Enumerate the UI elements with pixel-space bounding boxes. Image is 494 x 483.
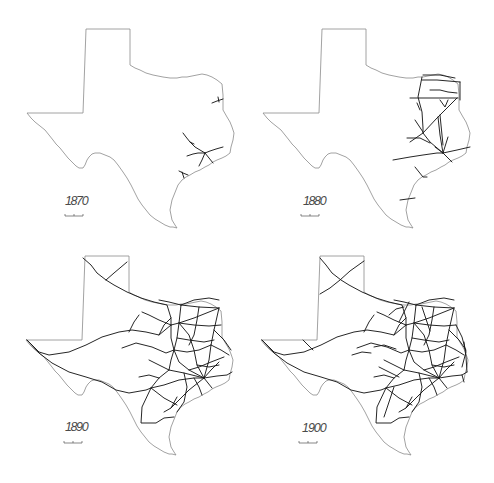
railroad-line <box>404 370 439 378</box>
railroad-network <box>393 75 470 200</box>
map-panel-1890: 1890 <box>26 256 233 455</box>
railroad-line <box>440 100 448 107</box>
railroad-line <box>179 171 188 175</box>
railroad-line <box>414 323 439 378</box>
scale-bar <box>65 214 83 216</box>
railroad-line <box>443 137 448 153</box>
railroad-line <box>151 325 174 388</box>
map-panel-1870: 1870 <box>27 29 234 228</box>
railroad-line <box>414 323 456 326</box>
scale-bar <box>64 441 82 443</box>
railroad-line <box>129 315 139 332</box>
railroad-line <box>446 345 464 355</box>
railroad-line <box>183 133 205 153</box>
railroad-network <box>179 97 223 178</box>
railroad-line <box>204 378 212 388</box>
railroad-line <box>205 147 223 153</box>
railroad-line <box>357 343 409 353</box>
railroad-line <box>418 77 423 133</box>
railroad-line <box>204 308 219 378</box>
map-panel-1900: 1900 <box>261 256 468 455</box>
scale-bar <box>301 214 319 216</box>
texas-outline <box>26 256 233 455</box>
railroad-line <box>386 325 409 388</box>
railroad-line <box>422 307 430 331</box>
railroad-line <box>406 378 439 408</box>
railroad-line <box>218 97 219 102</box>
railroad-line <box>384 387 394 417</box>
railroad-line <box>214 330 231 350</box>
scale-bar <box>299 441 317 443</box>
railroad-line <box>364 315 374 332</box>
railroad-line <box>320 258 406 325</box>
railroad-line <box>199 153 205 166</box>
railroad-line <box>393 153 443 160</box>
railroad-line <box>212 99 223 103</box>
railroad-line <box>149 360 169 370</box>
railroad-line <box>386 388 412 405</box>
railroad-line <box>139 375 159 378</box>
railroad-line <box>352 352 371 355</box>
railroad-line <box>106 262 127 280</box>
railroad-line <box>384 360 404 370</box>
map-panel-1880: 1880 <box>263 29 470 228</box>
railroad-line <box>171 378 204 408</box>
railroad-line <box>169 370 204 378</box>
railroad-line <box>122 343 174 353</box>
railroad-line <box>374 345 396 349</box>
railroad-line <box>400 198 415 200</box>
railroad-line <box>83 258 171 325</box>
railroad-line <box>177 338 214 342</box>
railroad-line <box>187 153 205 156</box>
railroad-line <box>389 307 404 315</box>
year-label: 1890 <box>65 420 89 434</box>
railroad-network <box>27 258 232 423</box>
year-label: 1880 <box>303 194 327 208</box>
railroad-line <box>410 98 457 142</box>
texas-railroad-map-series: 1870 1880 1890 1900 <box>0 0 494 483</box>
railroad-line <box>443 153 452 162</box>
railroad-line <box>449 330 466 350</box>
state-border <box>26 256 233 455</box>
railroad-line <box>211 345 229 355</box>
railroad-line <box>377 312 406 325</box>
state-border <box>27 29 234 228</box>
railroad-line <box>374 375 394 378</box>
railroad-line <box>151 388 177 405</box>
railroad-line <box>439 308 454 378</box>
year-label: 1900 <box>302 421 327 435</box>
railroad-network <box>262 258 467 423</box>
railroad-line <box>430 90 457 93</box>
railroad-line <box>415 120 423 132</box>
railroad-line <box>179 323 221 326</box>
texas-outline <box>27 29 234 228</box>
railroad-line <box>423 75 455 78</box>
railroad-line <box>179 323 204 378</box>
railroad-line <box>412 338 449 342</box>
year-label: 1870 <box>65 194 89 208</box>
texas-outline <box>261 256 468 455</box>
railroad-line <box>205 153 213 163</box>
state-border <box>261 256 468 455</box>
railroad-line <box>142 312 171 325</box>
railroad-line <box>439 378 447 388</box>
